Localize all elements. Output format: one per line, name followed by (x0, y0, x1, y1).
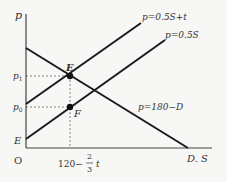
demand-line (26, 48, 188, 148)
point-F-label: F (73, 108, 82, 119)
supply-tax-label: p=0.5S+t (142, 12, 187, 22)
quantity-tick-frac-num: 2 (87, 152, 92, 161)
x-axis-label: D. S (186, 153, 208, 164)
origin-label: O (14, 155, 22, 166)
point-E-label: E (65, 62, 74, 73)
intercept-E-label: E (13, 135, 22, 146)
quantity-tick-frac-den: 3 (87, 165, 92, 174)
point-E (67, 73, 73, 79)
quantity-tick-suffix: t (96, 159, 100, 169)
y-axis-label: p (15, 9, 22, 22)
supply-demand-diagram: p O D. S p=0.5S+t p=0.5S p=180−D E F p1 … (0, 0, 227, 182)
demand-label: p=180−D (138, 102, 183, 112)
point-F (67, 104, 73, 110)
supply-tax-line (26, 23, 141, 104)
supply-label: p=0.5S (165, 30, 199, 40)
p1-tick-label: p1 (13, 71, 23, 82)
quantity-tick-prefix: 120− (58, 159, 83, 169)
p0-tick-label: p0 (13, 102, 23, 113)
